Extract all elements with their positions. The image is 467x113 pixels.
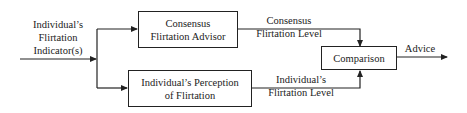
input-label-line: Flirtation xyxy=(18,31,98,44)
edge-label-line: Consensus xyxy=(244,14,334,27)
edge-label-line: Flirtation Level xyxy=(256,86,346,99)
box-label-line: of Flirtation xyxy=(141,89,239,102)
input-label-line: Indicator(s) xyxy=(18,44,98,57)
individual-perception-box: Individual’s Perception of Flirtation xyxy=(128,70,252,107)
edge-label-line: Individual’s xyxy=(256,73,346,86)
edge-label-line: Flirtation Level xyxy=(244,27,334,40)
input-label-line: Individual’s xyxy=(18,18,98,31)
box-label-line: Flirtation Advisor xyxy=(151,30,226,43)
box-label-line: Comparison xyxy=(333,52,384,65)
box-label-line: Individual’s Perception xyxy=(141,76,239,89)
edge-label-line: Advice xyxy=(400,42,440,55)
box-label-line: Consensus xyxy=(151,17,226,30)
consensus-level-label: Consensus Flirtation Level xyxy=(244,14,334,40)
advice-label: Advice xyxy=(400,42,440,55)
comparison-box: Comparison xyxy=(321,46,397,70)
flirtation-advice-diagram: Individual’s Flirtation Indicator(s) Con… xyxy=(0,0,467,113)
consensus-advisor-box: Consensus Flirtation Advisor xyxy=(138,11,238,48)
individual-level-label: Individual’s Flirtation Level xyxy=(256,73,346,99)
input-label: Individual’s Flirtation Indicator(s) xyxy=(18,18,98,57)
